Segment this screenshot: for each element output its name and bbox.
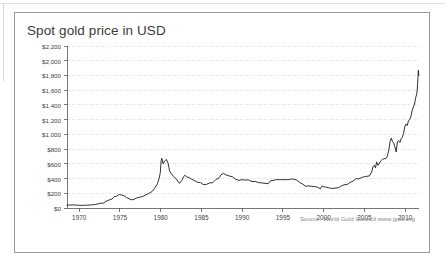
x-axis-tick-label: 1995 [276, 214, 290, 221]
y-axis-tick-label: $600 [15, 160, 61, 167]
y-axis-tick-label: $400 [15, 175, 61, 182]
y-axis-tick-label: $1,800 [15, 72, 61, 79]
x-axis-tick-label: 1980 [154, 214, 168, 221]
document-frame-top-rule [0, 3, 445, 4]
y-axis-tick-label: $1,400 [15, 101, 61, 108]
x-axis-tick-label: 1985 [194, 214, 208, 221]
y-axis-tick-label: $800 [15, 146, 61, 153]
data-series-line [67, 70, 419, 205]
y-axis-tick-label: $0 [15, 205, 61, 212]
source-attribution: Source: World Gold Council www.gold.org [300, 215, 415, 222]
document-frame-left-rule [3, 3, 4, 81]
x-axis-tick-label: 1970 [72, 214, 86, 221]
x-axis-tick-label: 1990 [235, 214, 249, 221]
gold-price-chart-card: Spot gold price in USD $0$200$400$600$80… [14, 12, 430, 253]
x-axis-tick-label: 1975 [113, 214, 127, 221]
y-axis-tick-label: $2,000 [15, 57, 61, 64]
y-axis-tick-label: $1,000 [15, 131, 61, 138]
y-axis-tick-label: $200 [15, 190, 61, 197]
page-root: Spot gold price in USD $0$200$400$600$80… [0, 0, 445, 271]
y-axis-tick-label: $1,200 [15, 116, 61, 123]
y-axis-tick-label: $2,200 [15, 43, 61, 50]
y-axis-tick-label: $1,600 [15, 87, 61, 94]
